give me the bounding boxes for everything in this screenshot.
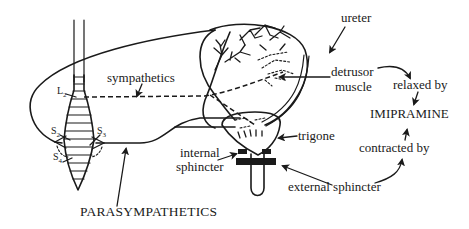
spinal-cord (64, 20, 94, 190)
label-relaxed-by: relaxed by (393, 77, 448, 92)
label-imipramine: IMIPRAMINE (370, 106, 449, 121)
label-parasympathetics: PARASYMPATHETICS (80, 204, 217, 219)
label-l2-sub: 2 (63, 91, 67, 99)
label-s2: S2 (51, 125, 61, 139)
bladder-innervation-diagram: ureter sympathetics L2 detrusor muscle r… (0, 0, 469, 229)
label-detrusor: detrusor (331, 64, 374, 79)
ureter (262, 55, 309, 126)
label-s3-sub: 3 (103, 131, 107, 139)
label-trigone: trigone (298, 128, 335, 143)
imipramine-down-arrow (414, 92, 418, 104)
imipramine-up-arrow (405, 130, 407, 140)
label-internal: internal (180, 145, 220, 160)
label-external-sphincter: external sphincter (288, 179, 381, 194)
external-sphincter (236, 158, 276, 165)
label-sympathetics: sympathetics (107, 70, 175, 85)
label-l2: L2 (57, 85, 67, 99)
label-s4-sub: 4 (59, 157, 63, 165)
label-contracted-by: contracted by (359, 140, 430, 155)
label-ureter: ureter (341, 10, 372, 25)
label-muscle: muscle (335, 79, 372, 94)
label-sphincter: sphincter (176, 159, 224, 174)
label-s2-sub: 2 (57, 131, 61, 139)
parasympathetics-arrow (117, 149, 126, 206)
trigone-arrow (279, 136, 297, 138)
ureter-arrow (330, 27, 345, 52)
